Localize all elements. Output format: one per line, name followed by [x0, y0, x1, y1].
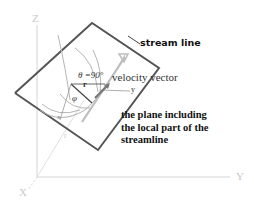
local-x-label: x	[57, 113, 61, 121]
y-axis-label: Y	[236, 170, 244, 182]
velocity-vector-label: velocity vector	[112, 71, 178, 83]
local-y-axis	[100, 90, 130, 91]
r-vector-label: r	[83, 80, 87, 89]
z-axis-label: Z	[32, 12, 39, 24]
local-y-label: y	[131, 85, 135, 94]
position-vector	[37, 100, 84, 177]
stream-line-leader	[128, 36, 140, 44]
diagram-canvas	[0, 0, 254, 209]
theta-label: θ =90°	[78, 70, 103, 80]
x-axis-label: X	[19, 186, 27, 198]
origin-r-label: r	[64, 131, 67, 140]
x-axis	[28, 177, 37, 190]
phi-line	[60, 84, 71, 120]
plane-description-line1: the plane including	[121, 109, 208, 122]
plane-description-line2: the local part of the	[121, 122, 208, 135]
plane-description: the plane including the local part of th…	[121, 109, 208, 147]
stream-line-label: stream line	[140, 37, 201, 48]
plane-description-line3: streamline	[121, 134, 208, 147]
phi-label: φ	[72, 93, 77, 103]
